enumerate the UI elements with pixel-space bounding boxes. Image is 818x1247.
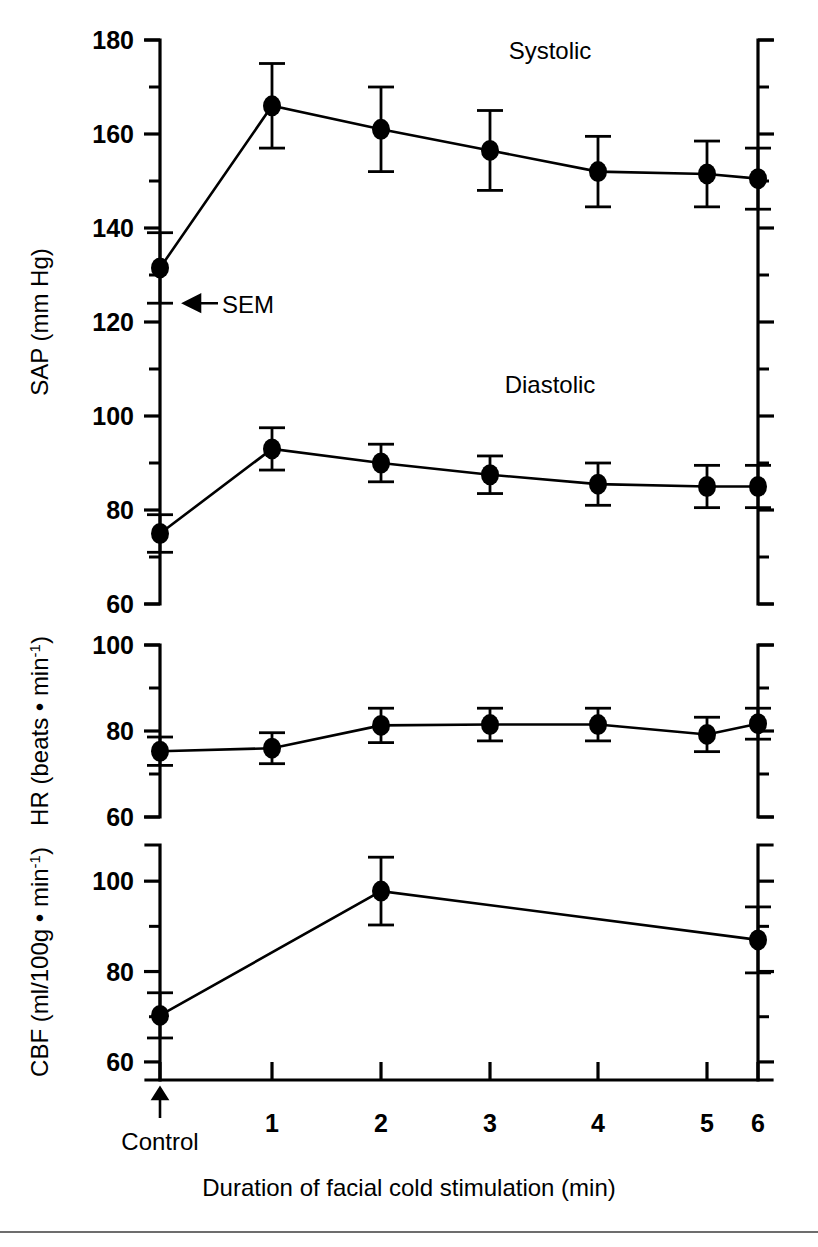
x-tick-label-4: 4	[591, 1109, 605, 1137]
y-tick-label-sap-160: 160	[92, 120, 134, 148]
data-point-hr-2	[372, 715, 390, 736]
footer-divider	[0, 1231, 818, 1233]
data-point-cbf-Control	[151, 1005, 169, 1026]
sem-arrow-icon	[184, 295, 218, 311]
x-tick-label-5: 5	[700, 1109, 714, 1137]
data-point-sap-6	[749, 476, 767, 497]
x-axis-caption: Duration of facial cold stimulation (min…	[202, 1174, 616, 1201]
y-axis-title-hr: HR (beats • min-1)	[26, 636, 53, 826]
y-tick-label-sap-180: 180	[92, 26, 134, 54]
data-point-sap-2	[372, 453, 390, 474]
y-tick-label-sap-100: 100	[92, 402, 134, 430]
series-line-diastolic	[160, 449, 758, 534]
y-tick-label-hr-60: 60	[106, 803, 134, 831]
x-tick-label-3: 3	[483, 1109, 497, 1137]
y-tick-label-cbf-80: 80	[106, 958, 134, 986]
y-tick-label-hr-80: 80	[106, 717, 134, 745]
multi-panel-chart: 6080100120140160180SAP (mm Hg)SystolicDi…	[0, 0, 818, 1247]
panel-sap	[144, 40, 774, 604]
data-point-sap-2	[372, 119, 390, 140]
y-axis-title-cbf: CBF (ml/100g • min-1)	[26, 847, 53, 1077]
data-point-cbf-6	[749, 929, 767, 950]
data-point-hr-4	[589, 714, 607, 735]
sem-label: SEM	[222, 291, 274, 318]
data-point-sap-6	[749, 168, 767, 189]
x-tick-label-1: 1	[265, 1109, 279, 1137]
y-axis-title-sap: SAP (mm Hg)	[26, 248, 53, 396]
data-point-sap-Control	[151, 523, 169, 544]
sem-annotation	[184, 295, 218, 311]
control-label: Control	[121, 1128, 198, 1155]
series-line-cerebral-blood-flow	[160, 891, 758, 1015]
annotation-diastolic: Diastolic	[505, 371, 596, 398]
x-tick-label-6: 6	[751, 1109, 765, 1137]
y-tick-label-hr-100: 100	[92, 631, 134, 659]
x-tick-label-2: 2	[374, 1109, 388, 1137]
data-point-sap-5	[698, 163, 716, 184]
data-point-sap-4	[589, 474, 607, 495]
data-point-sap-3	[481, 140, 499, 161]
data-point-sap-4	[589, 161, 607, 182]
y-tick-label-sap-60: 60	[106, 590, 134, 618]
annotation-systolic: Systolic	[509, 37, 592, 64]
data-point-hr-5	[698, 724, 716, 745]
y-tick-label-cbf-60: 60	[106, 1048, 134, 1076]
y-tick-label-sap-80: 80	[106, 496, 134, 524]
y-tick-label-sap-140: 140	[92, 214, 134, 242]
figure-container: 6080100120140160180SAP (mm Hg)SystolicDi…	[0, 0, 818, 1247]
x-axis	[153, 1062, 758, 1118]
control-arrow-icon	[153, 1088, 167, 1118]
data-point-sap-1	[263, 438, 281, 459]
data-point-sap-1	[263, 95, 281, 116]
data-point-hr-6	[749, 713, 767, 734]
series-line-heart-rate	[160, 724, 758, 752]
series-line-systolic	[160, 106, 758, 268]
data-point-hr-1	[263, 738, 281, 759]
panel-hr	[144, 645, 774, 817]
data-point-sap-5	[698, 476, 716, 497]
y-tick-label-sap-120: 120	[92, 308, 134, 336]
data-point-sap-Control	[151, 257, 169, 278]
panel-cbf	[144, 845, 774, 1080]
data-point-cbf-2	[372, 881, 390, 902]
y-tick-label-cbf-100: 100	[92, 867, 134, 895]
data-point-sap-3	[481, 464, 499, 485]
data-point-hr-Control	[151, 741, 169, 762]
data-point-hr-3	[481, 714, 499, 735]
